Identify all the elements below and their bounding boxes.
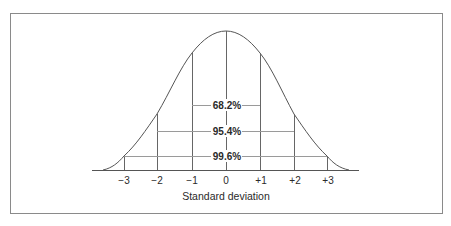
interval-label-1sd: 68.2% [213,100,241,111]
tick-label-plus-1: +1 [255,175,267,186]
tick-label-zero: 0 [223,175,229,186]
tick-label-minus-3: −3 [118,175,130,186]
interval-label-2sd: 95.4% [213,126,241,137]
tick-label-minus-1: −1 [186,175,198,186]
axis-title: Standard deviation [182,190,270,202]
interval-label-3sd: 99.6% [213,151,241,162]
tick-label-plus-2: +2 [289,175,301,186]
normal-distribution-diagram: 68.2% 95.4% 99.6% −3 −2 −1 0 +1 +2 +3 St… [0,0,451,226]
tick-label-minus-2: −2 [151,175,163,186]
tick-label-plus-3: +3 [322,175,334,186]
